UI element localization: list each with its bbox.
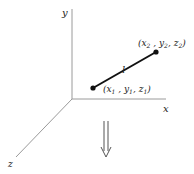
- point-2: [153, 49, 158, 54]
- z-axis-label: z: [7, 159, 13, 169]
- line-segment-3d-diagram: y x z l (x2 , y2, z2) (x1 , y1, z1): [0, 0, 194, 174]
- x-axis-label: x: [163, 103, 169, 114]
- point-1: [90, 85, 95, 90]
- y-axis-label: y: [61, 7, 68, 18]
- point-2-label: (x2 , y2, z2): [138, 38, 186, 49]
- point-1-label: (x1 , y1, z1): [103, 84, 151, 95]
- double-arrow-down-icon: [101, 121, 111, 157]
- segment-label: l: [122, 64, 125, 75]
- z-axis: [16, 99, 72, 157]
